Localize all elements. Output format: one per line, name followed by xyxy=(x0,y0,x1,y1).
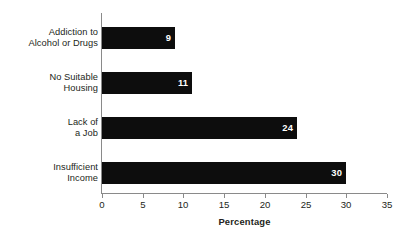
bar-value-label: 11 xyxy=(178,78,188,88)
x-tick-mark xyxy=(306,194,307,198)
x-tick-mark xyxy=(102,194,103,198)
x-tick-label: 0 xyxy=(99,199,104,210)
bar-value-label: 9 xyxy=(166,33,171,43)
bar: 11 xyxy=(102,72,192,94)
bar: 24 xyxy=(102,117,297,139)
x-axis-ticks: 05101520253035 xyxy=(102,194,387,216)
x-tick-mark xyxy=(224,194,225,198)
x-tick-label: 10 xyxy=(178,199,189,210)
x-tick-label: 15 xyxy=(219,199,230,210)
bar: 30 xyxy=(102,162,346,184)
category-label-line: Lack of xyxy=(0,117,98,128)
category-label-line: No Suitable xyxy=(0,72,98,83)
category-label-line: Alcohol or Drugs xyxy=(0,38,98,49)
category-label: Lack ofa Job xyxy=(0,117,98,140)
x-tick-label: 25 xyxy=(301,199,312,210)
category-label-line: Housing xyxy=(0,83,98,94)
bar-value-label: 30 xyxy=(331,168,342,178)
x-tick-label: 5 xyxy=(140,199,145,210)
plot-area: 9112430 xyxy=(102,13,387,193)
x-tick-mark xyxy=(265,194,266,198)
category-label: No SuitableHousing xyxy=(0,72,98,95)
x-tick-mark xyxy=(183,194,184,198)
category-label-line: Addiction to xyxy=(0,27,98,38)
x-axis-title: Percentage xyxy=(102,216,387,227)
bar-chart: Addiction toAlcohol or DrugsNo SuitableH… xyxy=(0,0,419,244)
bar: 9 xyxy=(102,27,175,49)
y-axis-line xyxy=(101,13,102,194)
category-label-line: Insufficient xyxy=(0,162,98,173)
x-tick-mark xyxy=(346,194,347,198)
x-tick-label: 35 xyxy=(382,199,393,210)
bar-value-label: 24 xyxy=(282,123,293,133)
x-tick-label: 20 xyxy=(260,199,271,210)
category-label-line: Income xyxy=(0,173,98,184)
category-label-line: a Job xyxy=(0,128,98,139)
category-axis-labels: Addiction toAlcohol or DrugsNo SuitableH… xyxy=(0,13,98,193)
x-tick-label: 30 xyxy=(341,199,352,210)
x-tick-mark xyxy=(143,194,144,198)
category-label: InsufficientIncome xyxy=(0,162,98,185)
x-tick-mark xyxy=(387,194,388,198)
category-label: Addiction toAlcohol or Drugs xyxy=(0,27,98,50)
